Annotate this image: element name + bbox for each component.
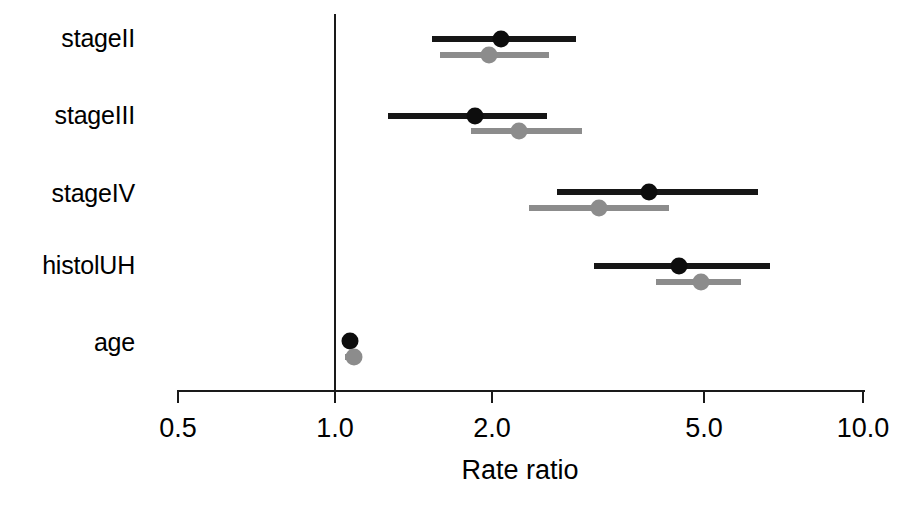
x-axis-tick-label-0: 0.5	[159, 413, 197, 444]
estimate-point-age-grey	[346, 349, 363, 366]
x-axis-tick-label-4: 10.0	[837, 413, 890, 444]
category-label-histolUH: histolUH	[42, 251, 135, 280]
x-axis-tick-3	[703, 390, 705, 403]
x-axis-tick-4	[862, 390, 864, 403]
reference-line-at-one	[334, 14, 336, 391]
estimate-point-stageIV-black	[641, 184, 658, 201]
category-label-stageIV: stageIV	[52, 179, 135, 208]
x-axis-tick-0	[177, 390, 179, 403]
x-axis-tick-label-3: 5.0	[685, 413, 723, 444]
x-axis-tick-2	[491, 390, 493, 403]
x-axis-line	[178, 390, 865, 392]
category-label-stageII: stageII	[61, 24, 135, 53]
estimate-point-histolUH-black	[671, 258, 688, 275]
x-axis-tick-label-2: 2.0	[473, 413, 511, 444]
estimate-point-stageII-black	[492, 31, 509, 48]
estimate-point-histolUH-grey	[692, 274, 709, 291]
estimate-point-age-black	[341, 333, 358, 350]
x-axis-title: Rate ratio	[461, 455, 578, 486]
forest-plot: stageII stageIII stageIV histolUH age 0.…	[0, 0, 917, 506]
estimate-point-stageIII-grey	[510, 123, 527, 140]
x-axis-tick-label-1: 1.0	[316, 413, 354, 444]
x-axis-tick-1	[334, 390, 336, 403]
estimate-point-stageIII-black	[466, 108, 483, 125]
estimate-point-stageII-grey	[481, 47, 498, 64]
category-label-age: age	[94, 328, 135, 357]
estimate-point-stageIV-grey	[590, 200, 607, 217]
category-label-stageIII: stageIII	[55, 101, 135, 130]
